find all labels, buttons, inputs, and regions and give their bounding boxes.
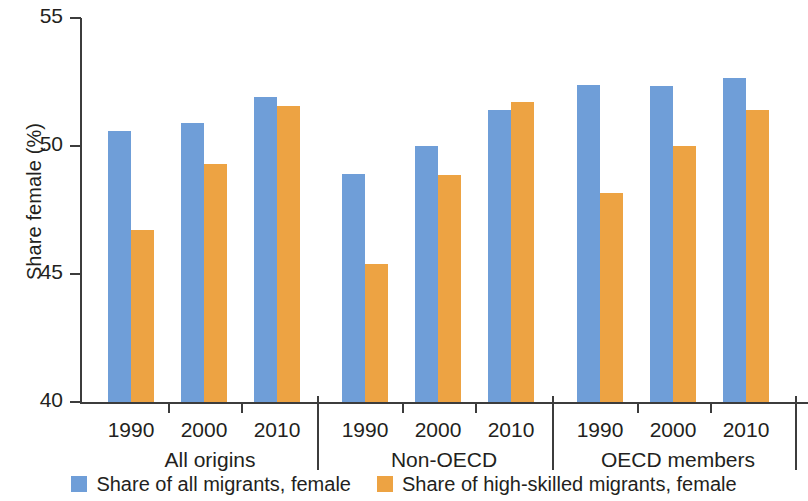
bar-oecd-members-2000-all-migrants <box>650 86 673 402</box>
x-minor-tick <box>637 404 639 413</box>
bar-non-oecd-2010-high-skilled <box>511 102 534 402</box>
bar-all-origins-1990-all-migrants <box>108 131 131 402</box>
x-minor-tick <box>168 404 170 413</box>
bar-non-oecd-2000-all-migrants <box>415 146 438 402</box>
chart-legend: Share of all migrants, femaleShare of hi… <box>0 473 808 495</box>
bar-all-origins-2010-all-migrants <box>254 97 277 402</box>
bar-oecd-members-1990-all-migrants <box>577 85 600 402</box>
y-tick-label-50: 50 <box>40 133 63 154</box>
bar-oecd-members-2010-high-skilled <box>746 110 769 402</box>
bar-non-oecd-2000-high-skilled <box>438 175 461 402</box>
year-label-all-origins-2010: 2010 <box>245 418 309 442</box>
bar-oecd-members-1990-high-skilled <box>600 193 623 402</box>
group-label-oecd-members: OECD members <box>548 448 808 472</box>
legend-swatch-icon <box>377 476 393 492</box>
bar-all-origins-2000-high-skilled <box>204 164 227 402</box>
bar-non-oecd-2010-all-migrants <box>488 110 511 402</box>
bar-chart: Share female (%) 40455055 19902000201019… <box>0 0 808 501</box>
year-label-non-oecd-2010: 2010 <box>479 418 543 442</box>
group-label-non-oecd: Non-OECD <box>314 448 574 472</box>
x-minor-tick <box>475 404 477 413</box>
bar-all-origins-1990-high-skilled <box>131 230 154 402</box>
y-tick-label-40: 40 <box>40 389 63 410</box>
bar-oecd-members-2010-all-migrants <box>723 78 746 402</box>
legend-label: Share of all migrants, female <box>96 473 351 495</box>
x-minor-tick <box>402 404 404 413</box>
bar-all-origins-2000-all-migrants <box>181 123 204 402</box>
bar-all-origins-2010-high-skilled <box>277 106 300 402</box>
year-label-all-origins-1990: 1990 <box>99 418 163 442</box>
year-label-oecd-members-2010: 2010 <box>714 418 778 442</box>
y-tick-45: 45 <box>70 273 81 275</box>
x-minor-tick <box>241 404 243 413</box>
year-label-non-oecd-1990: 1990 <box>333 418 397 442</box>
plot-area: 40455055 1990200020101990200020101990200… <box>80 14 808 404</box>
y-tick-40: 40 <box>70 401 81 403</box>
y-tick-label-55: 55 <box>40 5 63 26</box>
x-axis-line <box>80 402 808 404</box>
y-tick-55: 55 <box>70 17 81 19</box>
bar-oecd-members-2000-high-skilled <box>673 146 696 402</box>
legend-swatch-icon <box>71 476 87 492</box>
group-label-all-origins: All origins <box>80 448 340 472</box>
x-minor-tick <box>710 404 712 413</box>
year-label-oecd-members-2000: 2000 <box>641 418 705 442</box>
year-label-non-oecd-2000: 2000 <box>406 418 470 442</box>
bar-non-oecd-1990-high-skilled <box>365 264 388 402</box>
legend-item-all-migrants[interactable]: Share of all migrants, female <box>71 473 351 495</box>
y-tick-50: 50 <box>70 145 81 147</box>
y-axis-title: Share female (%) <box>23 72 46 332</box>
legend-label: Share of high-skilled migrants, female <box>402 473 737 495</box>
year-label-oecd-members-1990: 1990 <box>568 418 632 442</box>
y-axis-line <box>80 18 82 404</box>
bar-non-oecd-1990-all-migrants <box>342 174 365 402</box>
y-tick-label-45: 45 <box>40 261 63 282</box>
year-label-all-origins-2000: 2000 <box>172 418 236 442</box>
legend-item-high-skilled[interactable]: Share of high-skilled migrants, female <box>377 473 737 495</box>
